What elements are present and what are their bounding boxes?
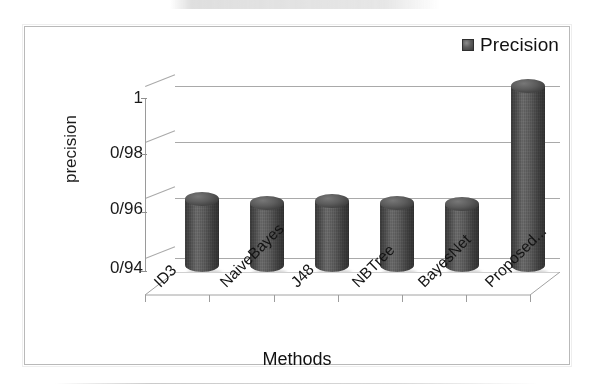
chart-legend: Precision (462, 34, 559, 56)
bar-cap (380, 196, 414, 210)
scan-artifact-bottom (55, 383, 539, 384)
legend-series-label: Precision (480, 34, 559, 56)
chart-frame: Precision precision 1 0/98 0/96 0/94 (24, 26, 570, 365)
bar-j48[interactable] (315, 194, 349, 272)
bar-body (185, 199, 219, 272)
bar-cap (185, 192, 219, 206)
y-tick-label: 0/98 (110, 144, 143, 161)
y-axis-tick-labels: 1 0/98 0/96 0/94 (77, 27, 143, 364)
bar-cap (445, 197, 479, 211)
x-axis-title: Methods (25, 349, 569, 370)
scan-artifact-top (170, 0, 440, 9)
bar-cap (250, 196, 284, 210)
bars-layer (145, 67, 560, 272)
bar-body (315, 201, 349, 272)
bar-cap (511, 79, 545, 93)
x-axis-tick-labels: ID3 NaiveBayes J48 NBTree BayesNet Propo… (145, 275, 575, 355)
y-tick-label: 0/94 (110, 259, 143, 276)
legend-color-swatch-icon (462, 39, 474, 51)
bar-cap (315, 194, 349, 208)
bar-id3[interactable] (185, 192, 219, 272)
plot-area (145, 67, 560, 272)
y-tick-label: 0/96 (110, 200, 143, 217)
